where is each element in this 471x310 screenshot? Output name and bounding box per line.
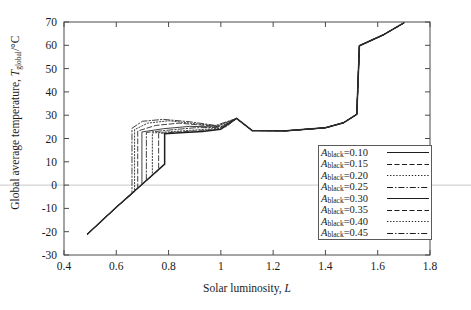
y-tick-labels: 706050403020100-10-20-30 <box>42 16 58 261</box>
x-axis-title-text: Solar luminosity, <box>203 282 284 294</box>
y-tick-label: 70 <box>46 16 58 28</box>
x-axis-title: Solar luminosity, L <box>64 282 430 294</box>
legend-line-sample <box>387 193 431 204</box>
y-tick-label: -20 <box>42 226 58 238</box>
y-tick-label: -30 <box>42 249 58 261</box>
y-axis-title: Global average temperature, Tglobal/°C <box>9 3 22 243</box>
legend-item: Ablack=0.15 <box>321 159 431 171</box>
y-tick-label: -10 <box>42 202 58 214</box>
x-tick-label: 0.6 <box>109 260 124 272</box>
y-tick-label: 20 <box>46 133 58 145</box>
legend-item-label: Ablack=0.15 <box>321 158 387 170</box>
y-tick-label: 30 <box>46 109 58 121</box>
legend-value: =0.20 <box>344 170 368 181</box>
chart-figure: 0.40.60.811.21.41.61.8 706050403020100-1… <box>0 0 471 310</box>
legend-subscript: black <box>327 230 343 239</box>
legend-value: =0.35 <box>344 204 368 215</box>
y-tick-label: 10 <box>46 156 58 168</box>
legend-value: =0.45 <box>344 227 368 238</box>
legend-item-label: Ablack=0.20 <box>321 170 387 182</box>
y-axis-title-text: Global average temperature, <box>9 76 21 209</box>
legend-line-sample <box>387 205 431 216</box>
x-tick-label: 0.8 <box>161 260 176 272</box>
legend-item: Ablack=0.10 <box>321 147 431 159</box>
x-tick-label: 1.4 <box>318 260 333 272</box>
x-tick-label: 0.4 <box>57 260 72 272</box>
legend-item: Ablack=0.25 <box>321 182 431 194</box>
legend-item-label: Ablack=0.25 <box>321 181 387 193</box>
y-axis-title-units: /°C <box>9 36 21 51</box>
legend-item: Ablack=0.35 <box>321 205 431 217</box>
legend-line-sample <box>387 170 431 181</box>
legend-value: =0.40 <box>344 216 368 227</box>
y-tick-label: 50 <box>46 63 58 75</box>
y-axis-title-symbol: T <box>9 70 21 76</box>
legend-item: Ablack=0.30 <box>321 193 431 205</box>
legend-item: Ablack=0.45 <box>321 228 431 240</box>
legend-value: =0.25 <box>344 181 368 192</box>
y-tick-label: 60 <box>46 39 58 51</box>
x-tick-label: 1 <box>218 260 224 272</box>
legend-item-label: Ablack=0.35 <box>321 204 387 216</box>
y-axis-title-wrapper: Global average temperature, Tglobal/°C <box>0 0 26 265</box>
y-tick-label: 40 <box>46 86 58 98</box>
legend-item: Ablack=0.20 <box>321 170 431 182</box>
legend-item: Ablack=0.40 <box>321 216 431 228</box>
y-tick-label: 0 <box>51 179 57 191</box>
legend-item-label: Ablack=0.40 <box>321 216 387 228</box>
x-tick-label: 1.8 <box>423 260 438 272</box>
x-axis-title-symbol: L <box>284 282 290 294</box>
legend-value: =0.30 <box>344 193 368 204</box>
legend-line-sample <box>387 147 431 158</box>
legend-line-sample <box>387 228 431 239</box>
legend-line-sample <box>387 159 431 170</box>
legend-item-label: Ablack=0.45 <box>321 227 387 239</box>
legend-line-sample <box>387 182 431 193</box>
x-tick-labels: 0.40.60.811.21.41.61.8 <box>57 260 438 272</box>
legend-value: =0.10 <box>344 147 368 158</box>
legend-value: =0.15 <box>344 158 368 169</box>
x-tick-label: 1.6 <box>371 260 386 272</box>
x-tick-label: 1.2 <box>266 260 281 272</box>
legend-line-sample <box>387 216 431 227</box>
legend-box: Ablack=0.10Ablack=0.15Ablack=0.20Ablack=… <box>318 145 432 240</box>
y-axis-title-subscript: global <box>14 51 23 70</box>
legend-item-label: Ablack=0.30 <box>321 193 387 205</box>
legend-item-label: Ablack=0.10 <box>321 147 387 159</box>
